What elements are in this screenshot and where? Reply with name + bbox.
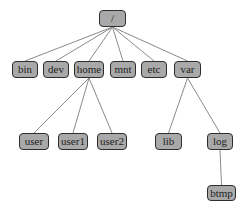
edge-var-lib bbox=[169, 78, 188, 133]
node-user2[interactable]: user2 bbox=[97, 133, 127, 150]
node-label: user1 bbox=[61, 136, 85, 147]
node-lib[interactable]: lib bbox=[155, 133, 182, 150]
edge-root-var bbox=[113, 27, 188, 61]
node-etc[interactable]: etc bbox=[141, 61, 167, 78]
node-label: dev bbox=[48, 64, 64, 75]
node-label: user bbox=[25, 136, 43, 147]
node-user[interactable]: user bbox=[19, 133, 49, 150]
node-dev[interactable]: dev bbox=[43, 61, 69, 78]
edge-root-bin bbox=[25, 27, 113, 61]
edge-root-mnt bbox=[113, 27, 124, 61]
node-label: user2 bbox=[100, 136, 124, 147]
edge-var-log bbox=[188, 78, 221, 133]
node-btmp[interactable]: btmp bbox=[207, 185, 236, 201]
edge-root-etc bbox=[113, 27, 155, 61]
directory-tree-diagram: / bin dev home mnt etc var user user1 us… bbox=[0, 0, 248, 211]
node-label: bin bbox=[18, 64, 32, 75]
edge-root-dev bbox=[56, 27, 113, 61]
node-user1[interactable]: user1 bbox=[58, 133, 88, 150]
node-label: etc bbox=[148, 64, 161, 75]
node-var[interactable]: var bbox=[174, 61, 201, 78]
node-label: btmp bbox=[210, 188, 233, 199]
node-label: mnt bbox=[114, 64, 131, 75]
node-label: var bbox=[180, 64, 194, 75]
node-home[interactable]: home bbox=[74, 61, 104, 78]
node-log[interactable]: log bbox=[207, 133, 233, 150]
node-root[interactable]: / bbox=[99, 10, 126, 27]
tree-edges bbox=[0, 0, 248, 211]
node-bin[interactable]: bin bbox=[12, 61, 38, 78]
node-label: lib bbox=[163, 136, 175, 147]
edge-log-btmp bbox=[220, 150, 222, 185]
node-label: log bbox=[213, 136, 227, 147]
node-label: home bbox=[77, 64, 101, 75]
node-mnt[interactable]: mnt bbox=[110, 61, 136, 78]
edge-home-user2 bbox=[89, 78, 112, 133]
node-label: / bbox=[111, 13, 114, 24]
